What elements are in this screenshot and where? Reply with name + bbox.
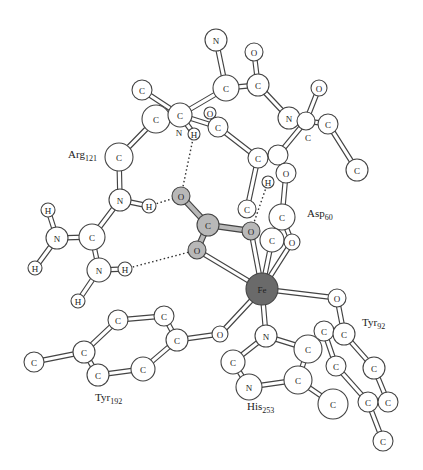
- svg-text:C: C: [365, 398, 371, 408]
- atom-c: C: [166, 329, 188, 351]
- atom-o: O: [328, 289, 346, 307]
- atom-h: H: [28, 261, 42, 275]
- residue-label-asp60: Asp60: [307, 207, 333, 222]
- svg-text:O: O: [194, 246, 201, 256]
- atom-h: H: [118, 262, 132, 276]
- atom-c: C: [326, 356, 346, 376]
- residue-label-arg121: Arg121: [68, 148, 97, 163]
- svg-text:C: C: [230, 358, 236, 368]
- svg-text:C: C: [354, 166, 360, 176]
- atom-c: C: [247, 74, 269, 96]
- atom-c: C: [168, 103, 192, 127]
- atom-o: O: [245, 43, 263, 61]
- atom-n: N: [87, 258, 111, 282]
- svg-text:N: N: [263, 332, 270, 342]
- svg-text:N: N: [117, 196, 124, 206]
- svg-text:C: C: [81, 348, 87, 358]
- residue-label-tyr192: Tyr192: [95, 391, 122, 406]
- svg-text:H: H: [45, 206, 52, 216]
- atom-c: C: [197, 214, 219, 236]
- atom-c: C: [269, 204, 295, 230]
- atom-c: C: [260, 228, 284, 252]
- svg-text:C: C: [341, 330, 347, 340]
- svg-text:C: C: [269, 236, 275, 246]
- svg-text:N: N: [54, 234, 61, 244]
- svg-text:N: N: [246, 383, 253, 393]
- atom-n: N: [278, 107, 300, 129]
- svg-text:C: C: [223, 84, 229, 94]
- atom-layer: NCOCONCCCCCHOCCOHCCCOCNHCNHHNHHOCOOFeOCC…: [24, 29, 398, 451]
- atom-c: C: [284, 366, 312, 394]
- atom-c: C: [333, 323, 355, 345]
- svg-text:O: O: [178, 192, 185, 202]
- atom-c: C: [378, 392, 398, 412]
- atom-c: C: [142, 105, 170, 133]
- atom-c: C: [131, 357, 155, 381]
- svg-text:O: O: [283, 169, 290, 179]
- atom-h: H: [142, 199, 156, 213]
- atom-n: N: [236, 374, 262, 400]
- atom-c: C: [221, 350, 245, 374]
- svg-text:C: C: [295, 376, 301, 386]
- atom-c: C: [154, 306, 174, 326]
- atom-o: O: [276, 163, 296, 183]
- atom-c: C: [238, 200, 256, 218]
- atom-c: C: [363, 357, 385, 379]
- atom-o: O: [242, 222, 260, 240]
- svg-text:O: O: [289, 238, 296, 248]
- atom-c: C: [318, 389, 348, 419]
- atom-o: O: [188, 241, 206, 259]
- hydrogen-bond: [125, 250, 197, 269]
- svg-text:C: C: [205, 221, 211, 231]
- atom-c: [268, 145, 288, 165]
- residue-label-his253: His253: [247, 400, 274, 415]
- atom-h: H: [41, 203, 55, 217]
- atom-label: C: [305, 133, 311, 143]
- svg-text:C: C: [380, 437, 386, 447]
- svg-text:C: C: [116, 153, 122, 163]
- atom-o: O: [172, 187, 190, 205]
- atom-c: C: [108, 310, 128, 330]
- svg-text:C: C: [31, 358, 37, 368]
- svg-text:O: O: [251, 48, 258, 58]
- atom-c: C: [24, 352, 44, 372]
- svg-text:H: H: [32, 264, 39, 274]
- atom-c: C: [105, 143, 133, 171]
- svg-text:C: C: [330, 400, 336, 410]
- atom-h: H: [71, 294, 85, 308]
- svg-text:C: C: [174, 336, 180, 346]
- svg-text:C: C: [177, 111, 183, 121]
- svg-text:H: H: [265, 178, 272, 188]
- svg-text:O: O: [248, 227, 255, 237]
- atom-o: O: [311, 80, 327, 96]
- svg-text:C: C: [244, 205, 250, 215]
- residue-label-tyr92: Tyr92: [362, 316, 385, 331]
- atom-c: C: [346, 159, 368, 181]
- svg-text:C: C: [115, 316, 121, 326]
- svg-text:N: N: [213, 36, 220, 46]
- atom-c: C: [208, 117, 228, 137]
- svg-text:O: O: [207, 109, 214, 119]
- atom-fe: Fe: [246, 273, 278, 305]
- svg-text:H: H: [191, 130, 198, 140]
- svg-text:C: C: [161, 312, 167, 322]
- svg-text:O: O: [217, 330, 224, 340]
- svg-text:H: H: [122, 265, 129, 275]
- svg-text:H: H: [146, 202, 153, 212]
- atom-c: C: [373, 431, 393, 451]
- svg-text:C: C: [333, 362, 339, 372]
- atom-c: C: [87, 364, 109, 386]
- atom-c: C: [213, 75, 239, 101]
- atom-c: C: [79, 224, 105, 250]
- svg-text:C: C: [305, 345, 311, 355]
- atom-n: N: [205, 29, 227, 51]
- atom-o: O: [212, 326, 228, 342]
- atom-c: C: [294, 335, 322, 363]
- atom-n: N: [255, 325, 277, 347]
- svg-text:C: C: [215, 123, 221, 133]
- svg-text:C: C: [255, 81, 261, 91]
- svg-text:H: H: [75, 297, 82, 307]
- svg-text:C: C: [89, 233, 95, 243]
- atom-c: [297, 112, 315, 130]
- svg-text:C: C: [279, 213, 285, 223]
